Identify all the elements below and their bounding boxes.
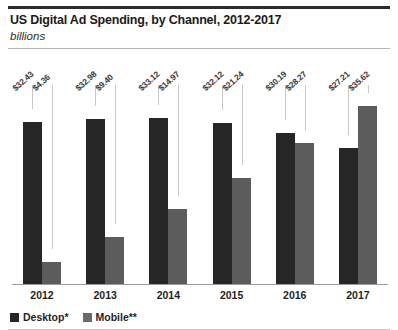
- label-leader-line: [178, 85, 179, 196]
- label-leader-line: [52, 85, 53, 249]
- legend-item-mobile[interactable]: Mobile**: [83, 311, 137, 323]
- chart-subtitle: billions: [10, 29, 388, 43]
- bar-desktop-2014[interactable]: [149, 118, 168, 284]
- mobile-swatch-icon: [83, 313, 92, 322]
- bar-group: $30.19$28.27: [269, 49, 321, 284]
- bar-mobile-2014[interactable]: [168, 209, 187, 284]
- label-leader-line: [348, 85, 349, 135]
- bar-groups: $32.43$4.36$32.98$9.40$33.12$14.97$32.12…: [16, 49, 384, 284]
- title-block: US Digital Ad Spending, by Channel, 2012…: [8, 9, 390, 45]
- x-tick-label-2017: 2017: [332, 289, 384, 301]
- label-leader-line: [305, 85, 306, 130]
- bar-group: $32.43$4.36: [16, 49, 68, 284]
- bar-desktop-2012[interactable]: [23, 122, 42, 284]
- desktop-swatch-icon: [10, 313, 19, 322]
- bar-mobile-2013[interactable]: [105, 237, 124, 284]
- legend-label-mobile: Mobile**: [96, 311, 137, 323]
- bar-mobile-2015[interactable]: [232, 178, 251, 284]
- x-tick-label-2016: 2016: [269, 289, 321, 301]
- label-leader-line: [242, 85, 243, 165]
- bar-desktop-2016[interactable]: [276, 133, 295, 284]
- label-leader-line: [368, 85, 369, 93]
- bar-mobile-2016[interactable]: [295, 143, 314, 284]
- chart-title: US Digital Ad Spending, by Channel, 2012…: [10, 13, 388, 28]
- label-leader-line: [285, 85, 286, 120]
- bar-desktop-2017[interactable]: [339, 148, 358, 284]
- bar-group: $27.21$35.62: [332, 49, 384, 284]
- label-leader-line: [115, 85, 116, 224]
- legend-item-desktop[interactable]: Desktop*: [10, 311, 69, 323]
- legend-label-desktop: Desktop*: [23, 311, 69, 323]
- bar-group: $32.98$9.40: [79, 49, 131, 284]
- x-tick-label-2012: 2012: [16, 289, 68, 301]
- bar-desktop-2013[interactable]: [86, 119, 105, 284]
- bar-desktop-2015[interactable]: [213, 123, 232, 284]
- bar-mobile-2012[interactable]: [42, 262, 61, 284]
- bar-group: $32.12$21.24: [206, 49, 258, 284]
- x-tick-label-2013: 2013: [79, 289, 131, 301]
- x-axis-line: [12, 284, 388, 285]
- x-axis-labels: 201220132014201520162017: [16, 286, 384, 304]
- x-tick-label-2014: 2014: [142, 289, 194, 301]
- chart-legend: Desktop* Mobile**: [8, 306, 390, 326]
- plot-area: $32.43$4.36$32.98$9.40$33.12$14.97$32.12…: [8, 49, 390, 306]
- x-tick-label-2015: 2015: [206, 289, 258, 301]
- bar-group: $33.12$14.97: [142, 49, 194, 284]
- bar-mobile-2017[interactable]: [358, 106, 377, 284]
- chart-figure: US Digital Ad Spending, by Channel, 2012…: [0, 0, 398, 330]
